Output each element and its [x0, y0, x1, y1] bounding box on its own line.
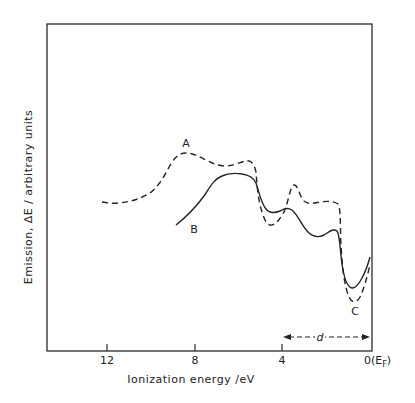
- d-label: d: [317, 331, 325, 344]
- x-tick-label-0: 0(EF): [364, 354, 391, 369]
- d-arrow: d: [283, 330, 370, 344]
- x-tick-label-4: 4: [279, 354, 286, 367]
- x-axis-ticks: [107, 344, 282, 351]
- curve-a: [102, 153, 370, 302]
- y-axis-label: Emission, ΔE / arbitrary units: [22, 110, 35, 285]
- x-tick-label-12: 12: [100, 354, 114, 367]
- curve-c-label: C: [351, 305, 359, 318]
- curve-b-label: B: [190, 223, 198, 236]
- x-axis-label: Ionization energy /eV: [127, 373, 254, 386]
- chart: 12 8 4 0(EF) Ionization energy /eV Emiss…: [0, 0, 415, 403]
- curve-a-label: A: [182, 137, 190, 150]
- x-tick-label-8: 8: [192, 354, 199, 367]
